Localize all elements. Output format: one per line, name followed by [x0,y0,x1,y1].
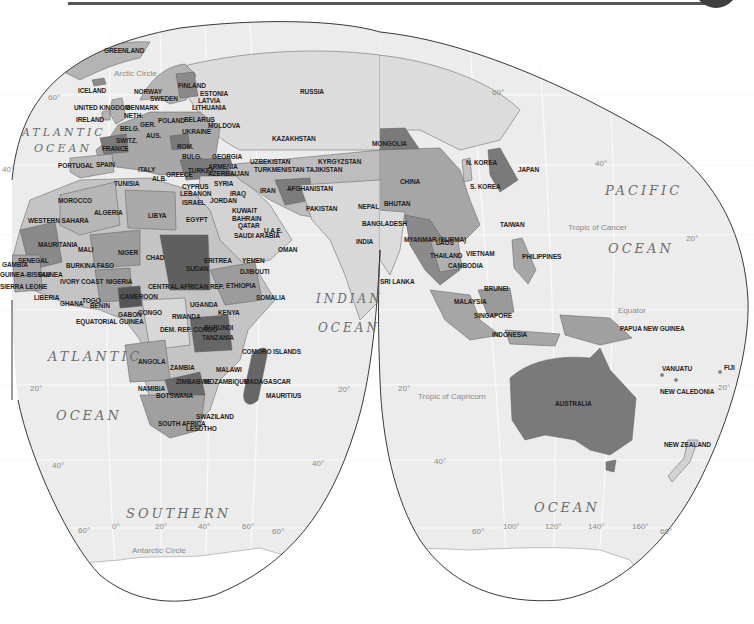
country-label: AFGHANISTAN [287,185,333,192]
country-label: PAKISTAN [306,205,337,212]
country-label: MAURITIUS [266,392,301,399]
ocean-label: OCEAN [608,241,674,256]
country-label: CAMEROON [120,293,158,300]
country-label: ETHIOPIA [226,282,256,289]
country-label: BURKINA FASO [66,262,114,269]
country-label: NETH. [124,112,143,119]
country-label: THAILAND [430,252,462,259]
country-label: ISRAEL [182,199,205,206]
degree-label: 20° [155,522,167,531]
country-label: VANUATU [662,365,692,372]
country-label: UZBEKISTAN [250,158,290,165]
country-label: ARMENIA [208,163,238,170]
country-label: CYPRUS [182,183,209,190]
country-label: BELG. [120,125,139,132]
latitude-line-label: Equator [618,306,646,315]
degree-label: 60° [492,88,504,97]
ocean-label: OCEAN [56,408,122,423]
country-label: EQUATORIAL GUINEA [76,318,144,325]
country-label: SUDAN [186,265,209,272]
country-label: GER. [140,121,156,128]
country-label: NIGERIA [106,278,132,285]
country-label: TUNISIA [114,180,139,187]
country-label: KUWAIT [232,207,257,214]
degree-label: 20° [398,384,410,393]
country-label: MONGOLIA [372,140,407,147]
country-label: TANZANIA [202,334,234,341]
degree-label: 60° [472,527,484,536]
country-label: POLAND [158,117,185,124]
country-label: INDIA [356,238,373,245]
country-label: BAHRAIN [232,215,261,222]
country-label: TURKMENISTAN [254,166,304,173]
degree-label: 140° [588,522,605,531]
country-label: SRI LANKA [380,278,415,285]
ocean-label: ATLANTIC [48,349,143,364]
country-label: ESTONIA [200,90,228,97]
country-label: LEBANON [180,190,211,197]
country-label: MALAYSIA [454,298,487,305]
degree-label: 40° [595,159,607,168]
ocean-label: ATLANTIC [22,126,106,139]
country-label: LAOS [436,239,454,246]
country-label: ROM. [177,143,194,150]
country-label: LESOTHO [186,425,217,432]
country-label: UNITED KINGDOM [74,104,130,111]
country-label: MALAWI [216,366,242,373]
country-label: YEMEN [242,257,265,264]
country-label: S. KOREA [470,183,501,190]
country-label: LITHUANIA [192,104,226,111]
country-label: PAPUA NEW GUINEA [620,325,685,332]
country-label: DENMARK [126,104,159,111]
country-label: GHANA [60,300,83,307]
degree-label: 20° [686,234,698,243]
degree-label: 160° [632,522,649,531]
country-label: ANGOLA [138,358,166,365]
country-label: SIERRA LEONE [0,283,47,290]
degree-label: 40° [434,457,446,466]
degree-label: 60° [660,527,672,536]
country-label: KENYA [218,309,240,316]
country-label: ICELAND [78,87,106,94]
country-label: TAJIKISTAN [306,166,342,173]
country-label: AUS. [146,132,161,139]
country-label: SOMALIA [256,294,285,301]
ocean-label: INDIAN [316,292,383,306]
degree-label: 40° [312,459,324,468]
country-label: SWAZILAND [196,413,234,420]
ocean-label: OCEAN [534,500,600,515]
country-label: NAMIBIA [138,385,165,392]
country-label: CAMBODIA [448,262,483,269]
degree-label: 60° [272,527,284,536]
country-label: QATAR [238,222,260,229]
degree-label: 20° [30,384,42,393]
country-label: TAIWAN [500,221,525,228]
country-label: NEW CALEDONIA [660,388,714,395]
degree-label: 20° [718,383,730,392]
degree-label: 60° [242,522,254,531]
country-label: CONGO [138,309,162,316]
country-label: WESTERN SAHARA [28,217,89,224]
country-label: BULG. [182,153,202,160]
country-label: FIJI [724,364,735,371]
country-label: BRUNEI [484,285,508,292]
country-label: IVORY COAST [60,278,103,285]
country-label: ERITREA [204,257,232,264]
country-label: AZERBAIJAN [208,170,249,177]
country-label: CENTRAL AFRICAN REP. [148,283,224,290]
country-label: CHAD [146,254,164,261]
country-label: NEW ZEALAND [664,441,711,448]
country-label: VIETNAM [466,250,495,257]
country-label: SWEDEN [150,95,178,102]
country-label: MALI [78,246,94,253]
degree-label: 20° [338,385,350,394]
country-label: SINGAPORE [474,312,512,319]
country-label: CHINA [400,178,420,185]
ocean-label: PACIFIC [605,183,682,198]
country-label: BOTSWANA [156,392,193,399]
country-label: MADAGASCAR [244,378,291,385]
latitude-line-label: Tropic of Cancer [568,223,627,232]
country-label: OMAN [278,246,297,253]
country-label: LIBYA [148,212,166,219]
country-label: JORDAN [210,197,237,204]
